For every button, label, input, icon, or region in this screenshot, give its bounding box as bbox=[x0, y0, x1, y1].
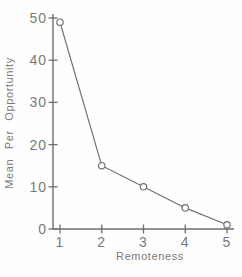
line-chart: 12345 01020304050 Mean Per Opportunity R… bbox=[0, 0, 242, 277]
y-axis-label: Mean Per Opportunity bbox=[3, 57, 15, 189]
data-series bbox=[57, 19, 230, 228]
x-axis-label: Remoteness bbox=[116, 250, 184, 262]
x-tick-label: 5 bbox=[223, 234, 232, 250]
y-tick-label: 30 bbox=[29, 94, 47, 110]
series-line bbox=[60, 22, 227, 225]
x-tick-label: 4 bbox=[181, 234, 190, 250]
data-point-marker bbox=[182, 205, 188, 211]
y-tick-label: 20 bbox=[29, 137, 47, 153]
data-point-marker bbox=[140, 184, 146, 190]
axis-lines bbox=[53, 14, 234, 229]
x-axis-tick-labels: 12345 bbox=[56, 234, 232, 250]
x-tick-label: 3 bbox=[139, 234, 148, 250]
y-axis-tick-labels: 01020304050 bbox=[29, 10, 47, 237]
y-tick-label: 50 bbox=[29, 10, 47, 26]
axes bbox=[53, 14, 234, 229]
y-tick-label: 40 bbox=[29, 52, 47, 68]
scanned-line-chart-figure: 12345 01020304050 Mean Per Opportunity R… bbox=[0, 0, 242, 277]
x-tick-label: 2 bbox=[97, 234, 106, 250]
y-tick-label: 10 bbox=[29, 179, 47, 195]
y-tick-label: 0 bbox=[38, 221, 47, 237]
data-point-marker bbox=[57, 19, 63, 25]
data-point-marker bbox=[99, 163, 105, 169]
data-point-marker bbox=[224, 222, 230, 228]
x-tick-label: 1 bbox=[56, 234, 65, 250]
